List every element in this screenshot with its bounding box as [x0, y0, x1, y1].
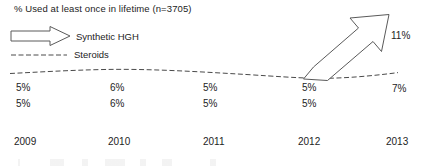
- legend-label-steroids: Steroids: [74, 49, 109, 60]
- value-steroids-2010: 6%: [110, 82, 124, 93]
- value-hgh-2013: 11%: [391, 30, 410, 41]
- chart-container: % Used at least once in lifetime (n=3705…: [0, 0, 426, 166]
- legend-item-synthetic-hgh: Synthetic HGH: [10, 26, 139, 46]
- year-label-2009: 2009: [14, 136, 36, 147]
- value-steroids-2011: 5%: [203, 82, 217, 93]
- chart-title: % Used at least once in lifetime (n=3705…: [14, 3, 192, 14]
- value-steroids-2013: 7%: [392, 83, 406, 94]
- value-steroids-2012: 5%: [302, 82, 316, 93]
- year-label-2013: 2013: [386, 136, 408, 147]
- steroids-trend-line: [10, 69, 398, 78]
- value-hgh-2010: 6%: [110, 98, 124, 109]
- dashed-line-icon: [10, 50, 68, 60]
- legend-item-steroids: Steroids: [10, 49, 109, 60]
- year-label-2012: 2012: [298, 136, 320, 147]
- value-hgh-2009: 5%: [16, 98, 30, 109]
- synthetic-hgh-arrow: [304, 15, 390, 81]
- year-label-2010: 2010: [108, 136, 130, 147]
- value-hgh-2012: 5%: [302, 98, 316, 109]
- value-hgh-2011: 5%: [203, 98, 217, 109]
- legend-label-synthetic-hgh: Synthetic HGH: [76, 31, 139, 42]
- bottom-edge-artifact: [0, 159, 426, 166]
- block-arrow-icon: [10, 26, 72, 46]
- value-steroids-2009: 5%: [16, 82, 30, 93]
- year-label-2011: 2011: [203, 136, 225, 147]
